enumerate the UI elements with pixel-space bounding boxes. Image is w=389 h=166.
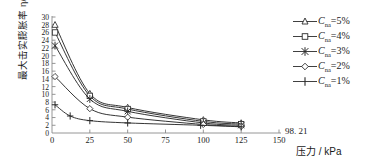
legend-symbol-plus <box>292 75 318 88</box>
y-tick-label: 28 <box>41 21 49 30</box>
x-tick-label: 150 <box>273 135 286 145</box>
y-tick-label: 0 <box>45 129 49 138</box>
y-tick-label: 14 <box>41 75 49 84</box>
legend-symbol-triangle <box>292 15 318 28</box>
x-axis-label: 压力 / kPa <box>296 143 342 158</box>
legend-item: Cna=5% <box>292 14 387 29</box>
legend-symbol-star <box>292 45 318 58</box>
x-tick-label: 100 <box>197 135 210 145</box>
y-tick-label: 22 <box>41 44 49 53</box>
legend-symbol-square <box>292 30 318 43</box>
series-triangle <box>52 22 244 126</box>
marker-square <box>52 30 57 35</box>
y-tick-label: 30 <box>41 13 49 22</box>
series-square <box>52 30 244 127</box>
y-tick-label: 8 <box>45 98 49 107</box>
marker-diamond <box>125 114 131 120</box>
y-tick-label: 4 <box>45 113 49 122</box>
marker-diamond <box>87 106 93 112</box>
x-tick-label: 25 <box>86 135 95 145</box>
chart-figure: 0255075100125150024681012141618202224262… <box>0 0 389 166</box>
legend-item: Cna=3% <box>292 44 387 59</box>
series-plus <box>52 101 245 130</box>
legend-item: Cna=1% <box>292 74 387 89</box>
y-tick-label: 6 <box>45 106 49 115</box>
x-tick-label: 50 <box>123 135 132 145</box>
y-tick-label: 2 <box>45 121 49 130</box>
legend-label: Cna=5% <box>318 15 350 28</box>
y-tick-label: 12 <box>41 83 49 92</box>
legend-item: Cna=4% <box>292 29 387 44</box>
legend-item: Cna=2% <box>292 59 387 74</box>
y-tick-label: 20 <box>41 52 49 61</box>
chart-legend: Cna=5% Cna=4% Cna=3% <box>292 14 387 89</box>
legend-symbol-diamond <box>292 60 318 73</box>
x-tick-label: 0 <box>50 135 54 145</box>
y-axis-label: 最大击实膨胀率 η/% <box>15 0 29 85</box>
series-line <box>55 25 241 123</box>
legend-label: Cna=2% <box>318 60 350 73</box>
y-tick-label: 24 <box>41 36 49 45</box>
legend-label: Cna=3% <box>318 45 350 58</box>
legend-label: Cna=1% <box>318 75 350 88</box>
y-tick-label: 18 <box>41 59 49 68</box>
y-tick-label: 26 <box>41 28 49 37</box>
annotation-98-21: 98. 21 <box>285 126 308 136</box>
series-line <box>55 32 241 124</box>
y-tick-label: 16 <box>41 67 49 76</box>
x-tick-label: 75 <box>161 135 170 145</box>
legend-label: Cna=4% <box>318 30 350 43</box>
y-tick-label: 10 <box>41 90 49 99</box>
series-star <box>52 42 244 129</box>
x-tick-label: 125 <box>235 135 248 145</box>
